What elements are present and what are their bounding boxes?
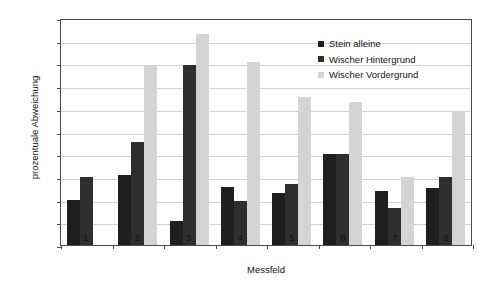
x-tick-mark	[473, 245, 474, 249]
x-tick-mark	[113, 245, 114, 249]
x-tick-mark	[164, 245, 165, 249]
x-tick-mark	[370, 245, 371, 249]
bar	[247, 62, 260, 245]
x-tick-mark	[61, 245, 62, 249]
legend-swatch-icon	[318, 56, 324, 62]
bar-group	[215, 20, 266, 245]
x-tick-label: 1	[66, 232, 106, 243]
x-axis-title: Messfeld	[60, 264, 472, 275]
bar	[452, 112, 465, 245]
bar-chart: prozentuale Abweichung 0,002,004,006,008…	[0, 0, 483, 288]
x-tick-mark	[216, 245, 217, 249]
x-tick-mark	[267, 245, 268, 249]
bar-group	[266, 20, 317, 245]
x-tick-label: 5	[272, 232, 312, 243]
legend-item: Wischer Vordergrund	[318, 69, 418, 80]
bar	[183, 65, 196, 245]
x-tick-mark	[422, 245, 423, 249]
x-tick-label: 2	[117, 232, 157, 243]
legend-swatch-icon	[318, 72, 324, 78]
legend-item: Wischer Hintergrund	[318, 54, 418, 65]
legend-item: Stein alleine	[318, 38, 418, 49]
bar-group	[420, 20, 471, 245]
legend-label: Wischer Hintergrund	[329, 54, 416, 65]
legend-swatch-icon	[318, 41, 324, 47]
x-tick-label: 6	[323, 232, 363, 243]
bar	[349, 102, 362, 245]
legend-label: Stein alleine	[329, 38, 381, 49]
x-tick-label: 3	[169, 232, 209, 243]
bar	[298, 97, 311, 245]
x-tick-label: 8	[426, 232, 466, 243]
bar	[196, 34, 209, 245]
y-axis-title: prozentuale Abweichung	[29, 28, 40, 228]
x-tick-label: 4	[220, 232, 260, 243]
bar	[144, 65, 157, 245]
legend: Stein alleineWischer HintergrundWischer …	[318, 38, 418, 80]
bar	[131, 142, 144, 245]
bar-group	[61, 20, 112, 245]
bar-group	[164, 20, 215, 245]
x-tick-mark	[319, 245, 320, 249]
x-tick-label: 7	[375, 232, 415, 243]
bar-group	[112, 20, 163, 245]
legend-label: Wischer Vordergrund	[329, 69, 418, 80]
